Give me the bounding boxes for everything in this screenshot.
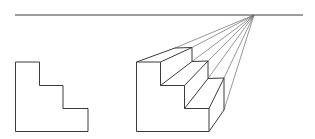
construction-line xyxy=(192,15,254,62)
staircase-receding-edges xyxy=(137,48,225,132)
receding-edge xyxy=(161,48,193,63)
vanishing-construction-lines xyxy=(175,15,254,110)
receding-edge xyxy=(209,78,224,109)
receding-edge xyxy=(209,110,224,132)
construction-line xyxy=(192,15,254,48)
construction-line xyxy=(224,15,254,110)
receding-edge xyxy=(137,48,176,62)
perspective-diagram xyxy=(0,0,315,139)
front-view-stair-profile xyxy=(16,62,89,132)
staircase-front-face xyxy=(137,62,210,132)
staircase-back-profile xyxy=(175,48,224,111)
receding-edge xyxy=(185,79,209,109)
construction-line xyxy=(224,15,254,78)
